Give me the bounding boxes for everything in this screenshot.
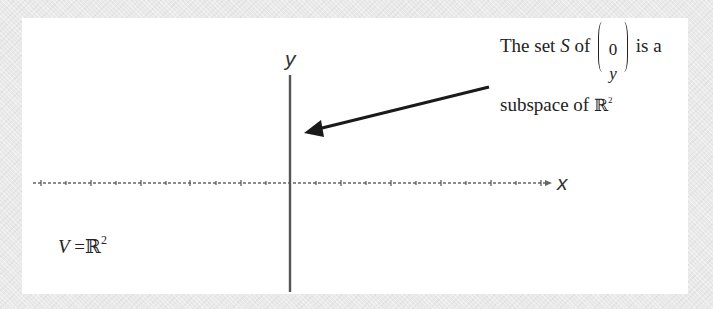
x-axis-arrowhead (545, 180, 552, 186)
x-axis-label: x (557, 171, 568, 195)
y-axis-label: y (285, 47, 296, 71)
field-exponent: 2 (608, 95, 613, 105)
space-field: ℝ (85, 235, 101, 257)
caption-of: of (570, 35, 591, 56)
space-equals: = (70, 236, 85, 257)
caption-prefix: The set (500, 35, 560, 56)
subspace-caption-line2: subspace of ℝ2 (500, 94, 613, 116)
real-field-symbol: ℝ (594, 95, 608, 115)
caption-suffix: is a (636, 35, 662, 56)
column-vector: 0 y (598, 22, 628, 74)
set-symbol: S (560, 35, 570, 56)
caption-line2-text: subspace of (500, 94, 594, 115)
right-paren (620, 22, 628, 72)
vector-space-label: V =ℝ2 (58, 233, 107, 258)
subspace-caption-line1: The set S of 0 y is a (500, 20, 662, 74)
space-var: V (58, 236, 70, 257)
space-exponent: 2 (101, 233, 107, 247)
pointer-arrowhead (304, 120, 324, 137)
pointer-arrow-shaft (318, 87, 489, 129)
